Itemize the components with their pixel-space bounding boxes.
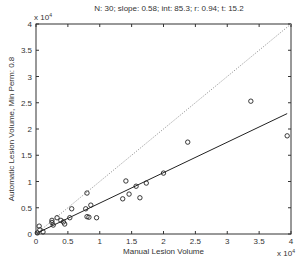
y-tick-label: 0.5 (21, 204, 33, 213)
data-point (85, 191, 89, 195)
data-point (70, 207, 74, 211)
x-axis-label: Manual Lesion Volume (123, 247, 204, 256)
fit-lines (36, 24, 291, 234)
data-point (127, 192, 131, 196)
x-tick-label: 3 (225, 237, 230, 246)
y-tick-label: 3 (28, 73, 33, 82)
data-point (124, 179, 128, 183)
x-tick-label: 0 (34, 237, 39, 246)
y-tick-label: 4 (28, 20, 33, 29)
y-multiplier-label: x 104 (34, 12, 52, 22)
identity-line (36, 24, 291, 234)
data-point (89, 203, 93, 207)
x-tick-label: 3.5 (254, 237, 266, 246)
x-tick-label: 1.5 (126, 237, 138, 246)
data-point (138, 196, 142, 200)
x-tick-label: 1 (98, 237, 103, 246)
y-tick-label: 3.5 (21, 46, 33, 55)
x-tick-label: 2.5 (190, 237, 202, 246)
y-tick-label: 2.5 (21, 99, 33, 108)
x-tick-label: 4 (289, 237, 294, 246)
data-point (249, 99, 253, 103)
data-point (186, 140, 190, 144)
y-tick-label: 0 (28, 230, 33, 239)
data-point (121, 197, 125, 201)
y-axis-label: Automatic Lesion Volume, Min Perm: 0.8 (7, 56, 16, 201)
x-tick-label: 0.5 (62, 237, 74, 246)
plot-axes: 00.511.522.533.5400.511.522.533.54 (21, 20, 294, 246)
x-multiplier-label: x 104 (277, 248, 295, 258)
data-point (144, 181, 148, 185)
y-tick-label: 1.5 (21, 151, 33, 160)
y-tick-label: 2 (28, 125, 33, 134)
data-points (35, 99, 289, 235)
scatter-plot: 00.511.522.533.5400.511.522.533.54 Manua… (0, 0, 308, 262)
data-point (94, 216, 98, 220)
x-tick-label: 2 (161, 237, 166, 246)
y-tick-label: 1 (28, 178, 33, 187)
data-point (285, 134, 289, 138)
